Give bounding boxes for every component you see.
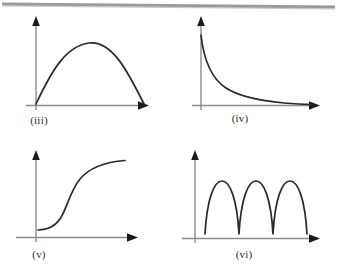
x-axis-iv xyxy=(192,101,320,109)
graph-panel-vi: (vi) xyxy=(168,141,336,272)
y-axis-v xyxy=(32,150,40,242)
caption-vi: (vi) xyxy=(160,248,328,260)
curve-periodic-oscillation xyxy=(205,181,307,234)
figure-sheet: (iii) (iv) xyxy=(0,0,337,272)
graph-panel-v: (v) xyxy=(0,141,168,272)
curve-downward-parabola xyxy=(36,43,144,104)
y-axis-vi xyxy=(191,150,199,243)
panel-grid: (iii) (iv) xyxy=(0,10,337,272)
caption-iii: (iii) xyxy=(0,114,123,126)
x-axis-vi xyxy=(182,234,320,242)
y-axis-iv xyxy=(197,16,205,110)
x-axis-iii xyxy=(26,101,149,109)
y-axis-iii xyxy=(32,16,40,110)
graph-panel-iii: (iii) xyxy=(0,10,168,141)
caption-v: (v) xyxy=(0,248,123,260)
x-axis-v xyxy=(16,233,138,241)
curve-sigmoid xyxy=(38,161,125,231)
caption-iv: (iv) xyxy=(156,112,324,124)
curve-decaying-reciprocal xyxy=(201,35,313,105)
graph-panel-iv: (iv) xyxy=(168,10,336,141)
